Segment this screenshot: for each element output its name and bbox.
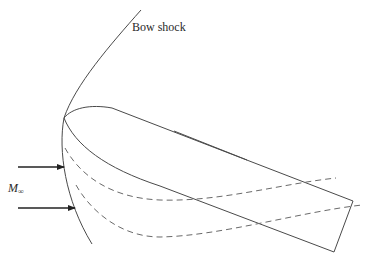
freestream-mach-label: M∞ (8, 181, 24, 196)
inner-reference-line (174, 131, 247, 160)
mach-symbol: M (8, 181, 18, 195)
upper-streamline-dashed (65, 148, 336, 200)
bow-shock-label: Bow shock (132, 20, 186, 35)
body-outline (64, 106, 353, 252)
bow-shock-curve (62, 10, 141, 244)
bow-shock-diagram: Bow shock M∞ (0, 0, 380, 262)
mach-subscript: ∞ (18, 187, 24, 196)
diagram-drawing (0, 0, 380, 262)
